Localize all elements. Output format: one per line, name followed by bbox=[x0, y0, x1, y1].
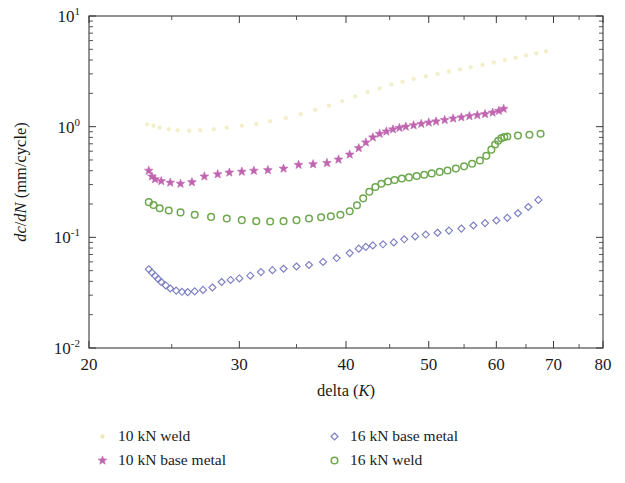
legend-item-16-kn-weld[interactable]: 16 kN weld bbox=[328, 452, 560, 468]
y-tick-label: 100 bbox=[58, 116, 81, 137]
legend-label: 10 kN weld bbox=[118, 428, 190, 444]
data-point bbox=[309, 160, 318, 168]
svg-text:dc/dN (mm/cycle): dc/dN (mm/cycle) bbox=[11, 122, 30, 242]
data-point bbox=[318, 214, 325, 221]
x-tick-label: 20 bbox=[81, 355, 98, 374]
data-point bbox=[366, 90, 370, 94]
data-point bbox=[346, 208, 353, 215]
data-point bbox=[177, 209, 184, 216]
data-point bbox=[469, 160, 476, 167]
data-point bbox=[354, 202, 361, 209]
data-point bbox=[493, 217, 500, 224]
data-point bbox=[176, 179, 185, 187]
data-point bbox=[369, 242, 376, 249]
data-point bbox=[327, 104, 331, 108]
data-point bbox=[469, 65, 473, 69]
data-point bbox=[515, 132, 522, 139]
data-point bbox=[524, 54, 528, 58]
data-point bbox=[257, 269, 264, 276]
data-point bbox=[340, 99, 344, 103]
data-point bbox=[504, 214, 511, 221]
data-point bbox=[191, 211, 198, 218]
data-point bbox=[492, 61, 496, 65]
data-point bbox=[458, 67, 462, 71]
figure-container: 2030405060708010-210-1100101delta (K)dc/… bbox=[0, 0, 625, 483]
circle-marker-icon bbox=[328, 454, 341, 467]
data-point bbox=[534, 51, 538, 55]
data-point bbox=[453, 165, 460, 172]
data-point bbox=[225, 168, 234, 176]
data-point bbox=[320, 258, 327, 265]
data-point bbox=[409, 121, 418, 129]
data-point bbox=[390, 239, 397, 246]
data-point bbox=[176, 128, 180, 132]
data-point bbox=[380, 241, 387, 248]
data-point bbox=[424, 74, 428, 78]
data-point bbox=[514, 210, 521, 217]
data-point bbox=[284, 116, 288, 120]
data-point bbox=[187, 129, 191, 133]
data-point bbox=[299, 112, 303, 116]
data-point bbox=[444, 167, 451, 174]
circle-glyph bbox=[331, 457, 338, 464]
data-point bbox=[247, 272, 254, 279]
data-point bbox=[422, 231, 429, 238]
point-glyph bbox=[101, 434, 105, 438]
data-point bbox=[434, 229, 441, 236]
data-point bbox=[389, 83, 393, 87]
data-point bbox=[334, 155, 343, 163]
data-point bbox=[227, 276, 234, 283]
x-tick-label: 40 bbox=[338, 355, 355, 374]
data-point bbox=[481, 109, 490, 117]
star-marker-icon bbox=[96, 454, 109, 467]
y-tick-label: 10-2 bbox=[54, 337, 80, 358]
data-point bbox=[361, 138, 370, 146]
legend-item-10-kn-base-metal[interactable]: 10 kN base metal bbox=[96, 452, 328, 468]
data-point bbox=[544, 49, 548, 53]
data-point bbox=[483, 153, 490, 160]
data-point bbox=[346, 250, 353, 257]
data-point bbox=[399, 175, 406, 182]
diamond-marker-icon bbox=[328, 430, 341, 443]
data-point bbox=[378, 86, 382, 90]
data-point bbox=[267, 218, 274, 225]
data-point bbox=[436, 169, 443, 176]
data-point bbox=[280, 218, 287, 225]
data-point bbox=[156, 205, 163, 212]
legend-item-16-kn-base-metal[interactable]: 16 kN base metal bbox=[328, 428, 560, 444]
data-point bbox=[440, 115, 449, 123]
data-point bbox=[537, 131, 544, 138]
data-point bbox=[240, 124, 244, 128]
data-point bbox=[362, 243, 369, 250]
data-point bbox=[294, 160, 303, 168]
data-point bbox=[503, 58, 507, 62]
axis-labels-group: 2030405060708010-210-1100101delta (K)dc/… bbox=[11, 5, 612, 400]
data-point bbox=[218, 278, 225, 285]
data-point bbox=[366, 188, 373, 195]
data-point bbox=[413, 173, 420, 180]
legend-item-10-kn-weld[interactable]: 10 kN weld bbox=[96, 428, 328, 444]
data-point bbox=[470, 222, 477, 229]
data-point bbox=[391, 177, 398, 184]
chart-legend: 10 kN weld16 kN base metal10 kN base met… bbox=[96, 424, 556, 472]
series-10-kn-base-metal bbox=[144, 104, 508, 187]
data-point bbox=[432, 117, 441, 125]
data-point bbox=[481, 63, 485, 67]
data-point bbox=[209, 284, 216, 291]
data-point bbox=[165, 207, 172, 214]
data-point bbox=[412, 233, 419, 240]
data-point bbox=[333, 255, 340, 262]
data-point bbox=[449, 114, 458, 122]
point-marker-icon bbox=[96, 430, 109, 443]
data-point bbox=[406, 174, 413, 181]
data-point bbox=[482, 220, 489, 227]
x-tick-label: 30 bbox=[231, 355, 248, 374]
x-tick-label: 80 bbox=[595, 355, 612, 374]
data-point bbox=[166, 178, 175, 186]
data-point bbox=[424, 118, 433, 126]
data-point bbox=[306, 215, 313, 222]
data-point bbox=[323, 158, 332, 166]
data-point bbox=[465, 112, 474, 120]
x-tick-label: 60 bbox=[488, 355, 505, 374]
x-tick-label: 70 bbox=[545, 355, 562, 374]
